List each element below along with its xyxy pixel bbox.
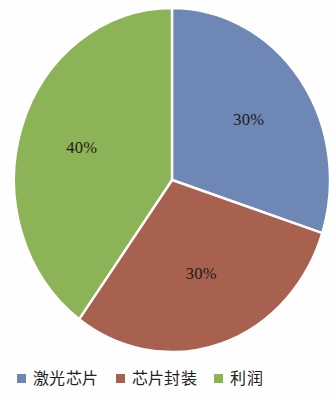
pie-slice-group xyxy=(14,8,329,352)
legend-swatch-icon-3 xyxy=(214,374,223,383)
legend-item-1[interactable]: 激光芯片 xyxy=(17,371,99,387)
pie-chart-plot-area: 30%30%40% xyxy=(0,0,329,352)
legend-item-label: 利润 xyxy=(230,371,263,387)
legend-swatch-icon-1 xyxy=(17,374,26,383)
pie-slice-label-1: 30% xyxy=(233,110,264,129)
legend-item-label: 激光芯片 xyxy=(33,371,99,387)
pie-slice-label-2: 30% xyxy=(186,264,217,283)
chart-legend: 激光芯片芯片封装利润 xyxy=(0,358,329,399)
legend-item-2[interactable]: 芯片封装 xyxy=(116,371,198,387)
pie-chart-figure: 30%30%40% 激光芯片芯片封装利润 xyxy=(0,0,329,399)
legend-item-3[interactable]: 利润 xyxy=(214,371,263,387)
legend-swatch-icon-2 xyxy=(116,374,125,383)
pie-chart-svg: 30%30%40% xyxy=(0,0,329,352)
legend-item-label: 芯片封装 xyxy=(132,371,198,387)
pie-slice-label-3: 40% xyxy=(66,138,97,157)
